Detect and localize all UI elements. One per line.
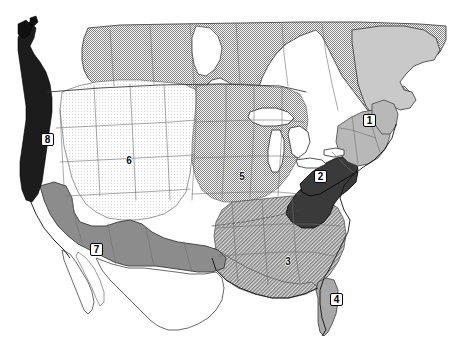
region-label-5[interactable]: 5: [236, 171, 248, 182]
map-figure: 1 2 3 4 5 6 7 8: [0, 0, 458, 356]
region-label-7[interactable]: 7: [90, 243, 103, 256]
region-label-8[interactable]: 8: [41, 133, 54, 146]
north-america-map: [0, 0, 458, 356]
region-label-3[interactable]: 3: [282, 256, 294, 267]
region-label-4[interactable]: 4: [330, 293, 343, 306]
region-label-2[interactable]: 2: [314, 170, 327, 183]
region-label-6[interactable]: 6: [123, 155, 135, 166]
region-label-1[interactable]: 1: [363, 114, 376, 127]
lake-ontario: [324, 148, 344, 157]
